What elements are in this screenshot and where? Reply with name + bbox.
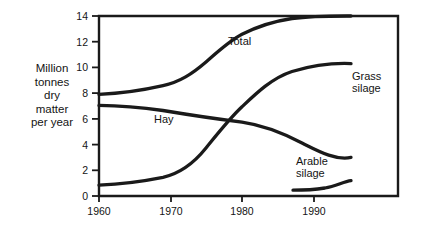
- y-tick-label-10: 10: [68, 61, 88, 73]
- y-tick-label-2: 2: [68, 164, 88, 176]
- series-label-grass-silage-line-2: silage: [352, 82, 381, 94]
- series-label-hay: Hay: [154, 113, 174, 125]
- series-label-total: Total: [228, 35, 251, 47]
- y-tick-label-12: 12: [68, 36, 88, 48]
- x-tick-label-1960: 1960: [79, 205, 119, 217]
- x-tick-label-1980: 1980: [222, 205, 262, 217]
- series-label-grass-silage-line-1: Grass: [352, 70, 381, 82]
- y-tick-label-6: 6: [68, 113, 88, 125]
- series-label-arable-silage: Arable silage: [296, 155, 328, 180]
- x-tick-label-1970: 1970: [151, 205, 191, 217]
- series-label-arable-silage-line-1: Arable: [296, 155, 328, 167]
- series-label-arable-silage-line-2: silage: [296, 167, 328, 179]
- series-label-grass-silage: Grass silage: [352, 70, 381, 95]
- y-tick-label-8: 8: [68, 87, 88, 99]
- y-tick-label-0: 0: [68, 190, 88, 202]
- y-tick-label-14: 14: [68, 10, 88, 22]
- y-tick-label-4: 4: [68, 139, 88, 151]
- chart-container: Million tonnes dry matter per year 14 12…: [0, 0, 423, 228]
- x-tick-label-1990: 1990: [294, 205, 334, 217]
